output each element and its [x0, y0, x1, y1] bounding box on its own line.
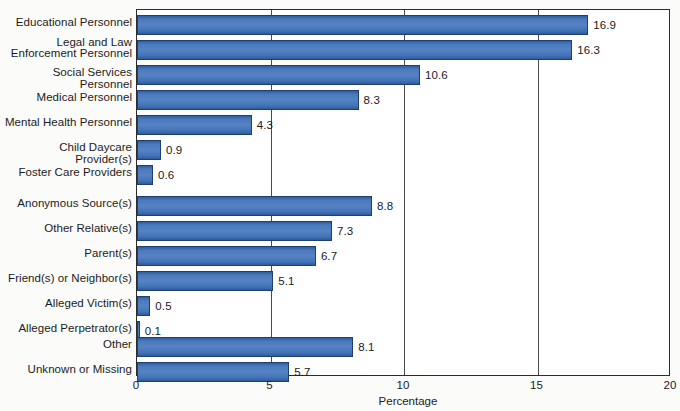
bar	[137, 140, 161, 160]
bar	[137, 246, 316, 266]
bar-value-label: 8.8	[377, 200, 393, 212]
bar-value-label: 5.7	[294, 366, 310, 378]
x-tick-label: 10	[397, 379, 410, 391]
bar	[137, 271, 273, 291]
category-label: Medical Personnel	[37, 92, 132, 104]
category-label: Unknown or Missing	[28, 364, 132, 376]
bar-row: 5.1	[137, 271, 669, 291]
plot-area: 16.916.310.68.34.30.90.68.87.36.75.10.50…	[136, 9, 670, 376]
bar-value-label: 7.3	[337, 225, 353, 237]
bar-row: 0.9	[137, 140, 669, 160]
bar-value-label: 0.6	[158, 169, 174, 181]
category-label: Other Relative(s)	[44, 223, 132, 235]
bar-row: 8.3	[137, 90, 669, 110]
bar-row: 4.3	[137, 115, 669, 135]
bar	[137, 221, 332, 241]
x-tick-label: 15	[530, 379, 543, 391]
category-label: Friend(s) or Neighbor(s)	[8, 273, 132, 285]
bar-value-label: 0.1	[145, 325, 161, 337]
bar-value-label: 6.7	[321, 250, 337, 262]
bar-row: 7.3	[137, 221, 669, 241]
bar-row: 8.1	[137, 337, 669, 357]
bar-row: 16.3	[137, 40, 669, 60]
bar-value-label: 16.3	[577, 44, 600, 56]
category-label: Other	[103, 339, 132, 351]
category-label: Anonymous Source(s)	[17, 198, 132, 210]
category-label: Legal and Law Enforcement Personnel	[11, 37, 132, 60]
category-label: Social Services Personnel	[0, 67, 132, 90]
category-label: Foster Care Providers	[18, 167, 132, 179]
bar-row: 0.6	[137, 165, 669, 185]
bar-row: 8.8	[137, 196, 669, 216]
bar	[137, 40, 572, 60]
bar-row: 6.7	[137, 246, 669, 266]
x-tick-label: 0	[133, 379, 139, 391]
bar-row: 0.5	[137, 296, 669, 316]
category-label: Parent(s)	[84, 248, 132, 260]
category-label: Educational Personnel	[16, 17, 132, 29]
bar-row: 10.6	[137, 65, 669, 85]
bar-value-label: 10.6	[425, 69, 448, 81]
category-label: Mental Health Personnel	[5, 117, 132, 129]
x-tick-label: 20	[664, 379, 677, 391]
bar	[137, 165, 153, 185]
bar-row: 16.9	[137, 15, 669, 35]
bar-value-label: 0.5	[155, 300, 171, 312]
bar	[137, 337, 353, 357]
bar-value-label: 0.9	[166, 144, 182, 156]
category-label: Alleged Victim(s)	[45, 298, 132, 310]
bar	[137, 15, 588, 35]
bar	[137, 65, 420, 85]
bar	[137, 296, 150, 316]
category-label: Alleged Perpetrator(s)	[18, 323, 132, 335]
x-axis-title: Percentage	[0, 395, 680, 407]
bar-value-label: 16.9	[593, 19, 616, 31]
bar-value-label: 5.1	[278, 275, 294, 287]
x-tick-label: 5	[266, 379, 272, 391]
category-label: Child Daycare Provider(s)	[0, 142, 132, 165]
bar-value-label: 8.1	[358, 341, 374, 353]
bar-value-label: 4.3	[257, 119, 273, 131]
bar	[137, 196, 372, 216]
bar	[137, 115, 252, 135]
bar-value-label: 8.3	[364, 94, 380, 106]
bar-chart: 16.916.310.68.34.30.90.68.87.36.75.10.50…	[0, 0, 680, 411]
bar	[137, 90, 359, 110]
